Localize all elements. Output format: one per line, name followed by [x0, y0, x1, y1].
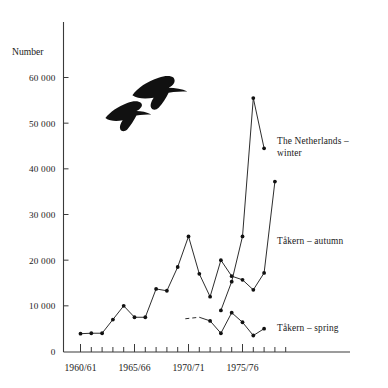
y-tick-label-30000: 30 000 [29, 210, 56, 220]
data-point [262, 146, 266, 150]
data-point [133, 315, 137, 319]
data-point [273, 180, 277, 184]
data-point [165, 289, 169, 293]
series-label-takern-autumn: Tåkern – autumn [277, 236, 343, 246]
data-point [176, 265, 180, 269]
y-tick-label-50000: 50 000 [29, 119, 56, 129]
series-takern-spring [185, 311, 266, 338]
y-tick-label-20000: 20 000 [29, 256, 56, 266]
y-axis-title: Number [12, 46, 44, 57]
data-point [208, 295, 212, 299]
x-axis-tick-labels: 1960/611965/661970/711975/76 [64, 362, 258, 373]
data-point [122, 304, 126, 308]
data-point [143, 315, 147, 319]
series-polyline [81, 182, 275, 334]
data-point [230, 311, 234, 315]
goose-silhouettes-group [105, 76, 187, 131]
data-point [79, 332, 83, 336]
series-polyline [199, 313, 264, 336]
series-lead-in-dashed [185, 317, 199, 319]
data-point [100, 331, 104, 335]
chart-canvas: 010 00020 00030 00040 00050 00060 000 19… [0, 0, 388, 388]
y-axis-ticks [64, 78, 69, 306]
series-label-netherlands-line2: winter [277, 148, 303, 158]
series-label-netherlands-line1: The Netherlands – [277, 136, 349, 146]
data-point [208, 319, 212, 323]
data-point [154, 287, 158, 291]
y-tick-label-0: 0 [51, 347, 56, 357]
series-layer [79, 96, 277, 337]
data-point [230, 280, 234, 284]
y-tick-label-10000: 10 000 [29, 301, 56, 311]
goose-population-line-chart: 010 00020 00030 00040 00050 00060 000 19… [0, 0, 388, 388]
y-tick-label-40000: 40 000 [29, 164, 56, 174]
data-point [219, 258, 223, 262]
data-point [89, 331, 93, 335]
data-point [241, 235, 245, 239]
x-tick-label-1965: 1965/66 [118, 362, 150, 373]
data-point [241, 320, 245, 324]
y-tick-label-60000: 60 000 [29, 73, 56, 83]
series-takern-autumn [79, 180, 277, 336]
axes-group [64, 22, 351, 352]
x-tick-label-1975: 1975/76 [226, 362, 258, 373]
x-tick-label-1970: 1970/71 [172, 362, 204, 373]
data-point [241, 278, 245, 282]
data-point [251, 96, 255, 100]
x-tick-label-1960: 1960/61 [64, 362, 96, 373]
series-label-takern-spring: Tåkern – spring [277, 323, 339, 333]
goose-silhouette-lower-icon [105, 101, 151, 131]
data-point [197, 272, 201, 276]
data-point [111, 318, 115, 322]
data-point [262, 271, 266, 275]
y-axis-tick-labels: 010 00020 00030 00040 00050 00060 000 [29, 73, 56, 357]
data-point [251, 334, 255, 338]
x-axis-ticks [81, 344, 286, 352]
data-point [262, 327, 266, 331]
data-point [251, 288, 255, 292]
data-point [219, 309, 223, 313]
data-point [219, 331, 223, 335]
data-point [187, 235, 191, 239]
